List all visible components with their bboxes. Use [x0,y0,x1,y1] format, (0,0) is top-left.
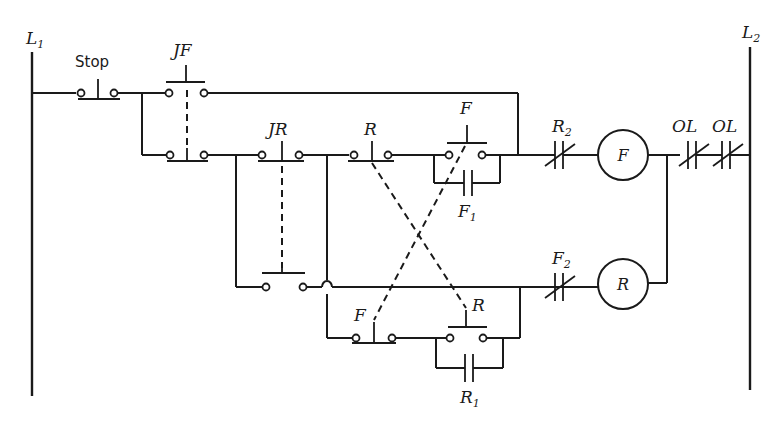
f1-seal-in-contact: F1 [434,155,500,224]
jr-pushbutton-nc: JR [258,119,304,161]
f2-interlock-contact: F2 [545,248,575,301]
forward-coil: F [598,130,648,180]
reverse-coil-label: R [616,275,629,294]
svg-text:L2: L2 [741,22,760,45]
svg-text:F1: F1 [457,201,477,224]
jr-pushbutton-no [262,265,307,291]
ol-label-1: OL [672,116,697,136]
r-lower-label: R [471,295,485,315]
f-pushbutton-no: F [434,98,487,159]
ol-label-2: OL [712,116,737,136]
left-rail-l1: L1 [25,28,44,396]
svg-text:R2: R2 [551,116,572,139]
r2-label: R [551,116,565,136]
jf-pushbutton-no: JF [166,40,208,97]
wire-crossover [322,281,332,287]
f-mechanical-link [374,146,465,320]
rail-l1-label: L [25,28,37,48]
svg-text:F2: F2 [551,248,571,271]
rail-l2-label: L [741,22,753,42]
jr-label: JR [265,119,288,139]
r-pushbutton-no-lower: R [434,295,487,342]
overload-contact-1: OL [672,116,709,169]
jf-label: JF [170,40,193,60]
reverse-coil: R [598,259,648,309]
f-lower-label: F [353,305,367,325]
r1-label: R [459,387,473,407]
f-label: F [459,98,473,118]
ladder-diagram: L1 L2 Stop JF [0,0,780,424]
overload-contact-2: OL [712,116,743,169]
svg-text:R1: R1 [459,387,480,410]
r2-interlock-contact: R2 [518,116,598,169]
r1-seal-in-contact: R1 [436,338,503,410]
stop-pushbutton: Stop [75,53,120,99]
right-rail-l2: L2 [741,22,760,390]
f-pushbutton-nc-lower: F [352,305,396,343]
forward-coil-label: F [616,146,629,165]
r-label: R [363,119,377,139]
svg-text:L1: L1 [25,28,44,51]
stop-label: Stop [75,53,109,71]
r-pushbutton-nc: R [348,119,394,161]
jf-pushbutton-nc [167,148,209,161]
